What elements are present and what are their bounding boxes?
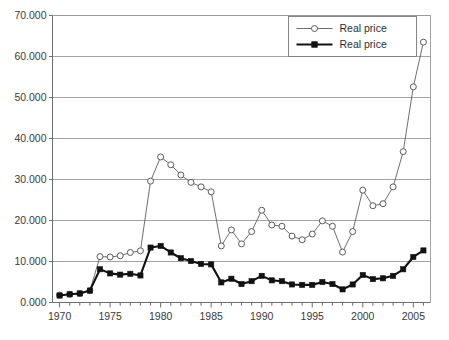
data-point[interactable]	[108, 271, 113, 276]
data-point[interactable]	[128, 271, 133, 276]
data-point[interactable]	[410, 84, 416, 90]
data-point[interactable]	[370, 277, 375, 282]
data-point[interactable]	[340, 287, 345, 292]
data-point[interactable]	[148, 245, 153, 250]
x-tick-label-1990: 1990	[250, 310, 274, 322]
legend-marker-filled-square	[312, 42, 318, 48]
data-point[interactable]	[259, 207, 265, 213]
series-line-1	[60, 42, 424, 295]
data-point[interactable]	[118, 272, 123, 277]
data-point[interactable]	[219, 280, 224, 285]
y-tick-label-10: 10.000	[14, 255, 46, 267]
data-point[interactable]	[330, 281, 335, 286]
data-point[interactable]	[360, 187, 366, 193]
data-point[interactable]	[370, 203, 376, 209]
data-point[interactable]	[289, 233, 295, 239]
data-point[interactable]	[198, 261, 203, 266]
data-point[interactable]	[300, 282, 305, 287]
data-point[interactable]	[158, 154, 164, 160]
data-point[interactable]	[188, 258, 193, 263]
data-point[interactable]	[390, 184, 396, 190]
data-point[interactable]	[340, 249, 346, 255]
data-point[interactable]	[97, 267, 102, 272]
data-point[interactable]	[299, 237, 305, 243]
data-point[interactable]	[269, 278, 274, 283]
x-tick-label-2005: 2005	[402, 310, 426, 322]
data-point[interactable]	[208, 189, 214, 195]
data-point[interactable]	[401, 267, 406, 272]
data-point[interactable]	[249, 279, 254, 284]
series-line-2	[60, 246, 424, 296]
data-point[interactable]	[97, 254, 103, 260]
x-tick-label-1980: 1980	[149, 310, 173, 322]
data-point[interactable]	[239, 281, 244, 286]
y-tick-label-0: 0.000	[20, 296, 46, 308]
data-point[interactable]	[228, 227, 234, 233]
data-point[interactable]	[391, 273, 396, 278]
legend-marker-open-circle	[312, 26, 318, 32]
data-point[interactable]	[360, 272, 365, 277]
data-point[interactable]	[87, 288, 92, 293]
data-point[interactable]	[127, 249, 133, 255]
y-axis-ticks: 0.00010.00020.00030.00040.00050.00060.00…	[14, 9, 52, 308]
x-tick-label-1975: 1975	[98, 310, 122, 322]
data-point[interactable]	[178, 172, 184, 178]
legend-label-2: Real price	[340, 38, 387, 50]
data-point[interactable]	[138, 273, 143, 278]
data-point[interactable]	[57, 293, 62, 298]
x-tick-label-1985: 1985	[199, 310, 223, 322]
data-point[interactable]	[198, 184, 204, 190]
data-point[interactable]	[168, 162, 174, 168]
data-point[interactable]	[350, 282, 355, 287]
series-1-open-circle	[57, 39, 427, 298]
figure-container: 0.00010.00020.00030.00040.00050.00060.00…	[0, 0, 449, 340]
data-point[interactable]	[259, 273, 264, 278]
y-tick-label-20: 20.000	[14, 214, 46, 226]
data-point[interactable]	[289, 282, 294, 287]
x-tick-label-1970: 1970	[48, 310, 72, 322]
data-point[interactable]	[421, 248, 426, 253]
y-tick-label-50: 50.000	[14, 91, 46, 103]
data-point[interactable]	[137, 248, 143, 254]
data-point[interactable]	[158, 243, 163, 248]
data-point[interactable]	[309, 231, 315, 237]
data-point[interactable]	[279, 279, 284, 284]
data-point[interactable]	[249, 229, 255, 235]
data-point[interactable]	[148, 178, 154, 184]
data-point[interactable]	[168, 250, 173, 255]
x-tick-label-1995: 1995	[301, 310, 325, 322]
data-point[interactable]	[380, 276, 385, 281]
x-axis-ticks: 19701975198019851990199520002005	[48, 303, 425, 322]
y-tick-label-40: 40.000	[14, 132, 46, 144]
data-point[interactable]	[117, 253, 123, 259]
data-point[interactable]	[279, 223, 285, 229]
line-chart: 0.00010.00020.00030.00040.00050.00060.00…	[0, 0, 449, 340]
y-tick-label-30: 30.000	[14, 173, 46, 185]
data-point[interactable]	[269, 222, 275, 228]
legend-label-1: Real price	[340, 22, 387, 34]
data-point[interactable]	[420, 39, 426, 45]
series-2-filled-square	[57, 243, 426, 298]
data-point[interactable]	[319, 218, 325, 224]
figure-caption-strip	[0, 333, 449, 340]
data-point[interactable]	[107, 254, 113, 260]
x-tick-label-2000: 2000	[351, 310, 375, 322]
data-point[interactable]	[400, 149, 406, 155]
legend: Real priceReal price	[289, 17, 417, 57]
data-point[interactable]	[411, 254, 416, 259]
data-point[interactable]	[310, 282, 315, 287]
data-point[interactable]	[218, 243, 224, 249]
data-point[interactable]	[329, 223, 335, 229]
data-point[interactable]	[77, 291, 82, 296]
data-point[interactable]	[239, 241, 245, 247]
data-point[interactable]	[229, 276, 234, 281]
y-tick-label-70: 70.000	[14, 9, 46, 21]
data-point[interactable]	[209, 262, 214, 267]
data-point[interactable]	[320, 279, 325, 284]
data-point[interactable]	[67, 292, 72, 297]
data-point[interactable]	[188, 179, 194, 185]
data-point[interactable]	[350, 229, 356, 235]
y-tick-label-60: 60.000	[14, 50, 46, 62]
data-point[interactable]	[380, 201, 386, 207]
data-point[interactable]	[178, 256, 183, 261]
